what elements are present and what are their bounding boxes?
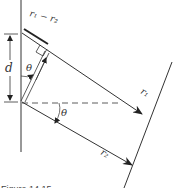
- path-difference-label: r₁ − r₂: [29, 8, 60, 25]
- angle-bottom-label: θ: [61, 107, 67, 118]
- screen-line: [124, 62, 172, 188]
- figure-caption: Figure 14.15: [1, 184, 52, 188]
- ray-r2-label: r₂: [99, 147, 111, 160]
- angle-top-label: θ: [26, 62, 32, 73]
- angle-arc-bottom: [55, 103, 60, 123]
- separation-label: d: [5, 61, 13, 75]
- ray-r2: [22, 102, 132, 165]
- two-slit-diagram: d r₁ − r₂ r₁ r₂ θ θ Figure 14.15: [0, 0, 178, 188]
- ray-r1-label: r₁: [139, 86, 151, 99]
- angle-arc-top: [21, 75, 33, 77]
